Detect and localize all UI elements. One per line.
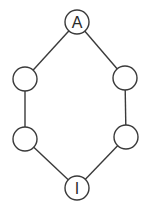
node-top-label: A bbox=[72, 14, 83, 31]
node-right-lower bbox=[114, 125, 138, 149]
node-right-upper-circle bbox=[113, 66, 137, 90]
node-top: A bbox=[65, 10, 89, 34]
nodes-group: A I bbox=[13, 10, 138, 200]
node-left-upper bbox=[13, 67, 37, 91]
node-left-lower-circle bbox=[13, 127, 37, 151]
node-left-upper-circle bbox=[13, 67, 37, 91]
node-right-upper bbox=[113, 66, 137, 90]
node-right-lower-circle bbox=[114, 125, 138, 149]
node-bottom-label: I bbox=[75, 180, 79, 197]
node-bottom: I bbox=[65, 176, 89, 200]
node-left-lower bbox=[13, 127, 37, 151]
hexagon-graph-diagram: A I bbox=[0, 0, 151, 214]
graph-canvas: A I bbox=[0, 0, 151, 214]
edges-group bbox=[25, 22, 126, 188]
